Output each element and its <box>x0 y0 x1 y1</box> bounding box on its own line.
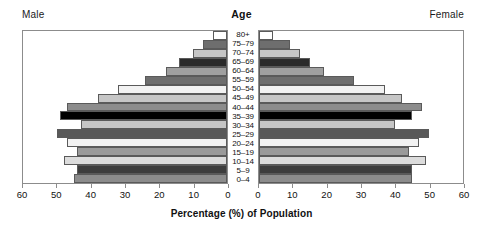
age-label: 35–39 <box>228 112 258 121</box>
male-plot-panel <box>22 30 228 184</box>
bar-left-1519 <box>77 147 227 156</box>
bar-row <box>23 103 227 112</box>
axis-tick <box>56 184 57 188</box>
axis-tick <box>159 184 160 188</box>
bar-left-5559 <box>145 76 227 85</box>
bar-row <box>23 40 227 49</box>
axis-tick-label: 20 <box>321 189 332 200</box>
bar-left-3034 <box>81 120 227 129</box>
axis-tick-label: 30 <box>356 189 367 200</box>
age-label: 70–74 <box>228 48 258 57</box>
age-label: 15–19 <box>228 148 258 157</box>
age-label: 60–64 <box>228 66 258 75</box>
bar-row <box>259 94 463 103</box>
bar-left-3539 <box>60 111 227 120</box>
bar-row <box>23 76 227 85</box>
bar-right-2529 <box>259 129 429 138</box>
bar-row <box>23 129 227 138</box>
female-x-axis: 0102030405060 <box>258 184 464 206</box>
bar-row <box>259 156 463 165</box>
population-pyramid-chart: Male Female Age 80+75–7970–7465–6960–645… <box>0 0 483 234</box>
axis-tick-label: 60 <box>459 189 470 200</box>
bar-row <box>259 49 463 58</box>
axis-tick-label: 0 <box>225 189 230 200</box>
bar-left-80+ <box>213 31 227 40</box>
bar-row <box>23 31 227 40</box>
bar-left-6569 <box>179 58 227 67</box>
axis-tick <box>292 184 293 188</box>
age-label: 20–24 <box>228 139 258 148</box>
age-label: 0–4 <box>228 175 258 184</box>
bar-right-1519 <box>259 147 409 156</box>
age-label: 65–69 <box>228 57 258 66</box>
male-x-axis: 0102030405060 <box>22 184 228 206</box>
axis-tick-label: 40 <box>390 189 401 200</box>
bar-row <box>23 85 227 94</box>
age-label: 80+ <box>228 30 258 39</box>
bar-right-4549 <box>259 94 402 103</box>
bar-row <box>23 67 227 76</box>
bar-right-04 <box>259 174 412 183</box>
axis-tick-label: 50 <box>51 189 62 200</box>
axis-tick-label: 50 <box>424 189 435 200</box>
age-label: 5–9 <box>228 166 258 175</box>
bar-row <box>23 58 227 67</box>
bar-left-5054 <box>118 85 227 94</box>
bar-row <box>259 40 463 49</box>
bar-right-3034 <box>259 120 395 129</box>
bar-row <box>23 138 227 147</box>
bar-row <box>23 49 227 58</box>
bar-row <box>23 111 227 120</box>
axis-tick-label: 10 <box>287 189 298 200</box>
bar-left-6064 <box>166 67 227 76</box>
bar-left-7074 <box>193 49 227 58</box>
axis-tick-label: 0 <box>255 189 260 200</box>
bar-left-4549 <box>98 94 227 103</box>
axis-tick <box>125 184 126 188</box>
bar-left-7579 <box>203 40 227 49</box>
bar-left-2529 <box>57 129 227 138</box>
axis-tick <box>228 184 229 188</box>
age-label: 55–59 <box>228 75 258 84</box>
bar-left-04 <box>74 174 227 183</box>
male-bar-rows <box>23 31 227 183</box>
female-bar-rows <box>259 31 463 183</box>
bar-row <box>259 138 463 147</box>
axis-tick <box>258 184 259 188</box>
bar-left-1014 <box>64 156 227 165</box>
axis-tick <box>327 184 328 188</box>
bar-left-2024 <box>67 138 227 147</box>
bar-right-6569 <box>259 58 310 67</box>
bar-left-4044 <box>67 103 227 112</box>
female-plot-panel <box>258 30 464 184</box>
age-label: 75–79 <box>228 39 258 48</box>
axis-tick <box>22 184 23 188</box>
bar-right-5559 <box>259 76 354 85</box>
bar-left-59 <box>77 165 227 174</box>
bar-right-7074 <box>259 49 300 58</box>
axis-tick <box>430 184 431 188</box>
bar-right-80+ <box>259 31 273 40</box>
bar-row <box>259 67 463 76</box>
bar-right-6064 <box>259 67 324 76</box>
bar-right-1014 <box>259 156 426 165</box>
x-axis-title: Percentage (%) of Population <box>0 208 483 219</box>
age-label: 50–54 <box>228 84 258 93</box>
bar-right-3539 <box>259 111 412 120</box>
age-group-labels: 80+75–7970–7465–6960–6455–5950–5445–4940… <box>228 30 258 184</box>
age-label: 10–14 <box>228 157 258 166</box>
axis-tick <box>194 184 195 188</box>
axis-tick-label: 60 <box>17 189 28 200</box>
bar-row <box>259 111 463 120</box>
axis-tick <box>464 184 465 188</box>
bar-row <box>259 129 463 138</box>
bar-row <box>259 103 463 112</box>
bar-row <box>23 94 227 103</box>
bar-row <box>23 156 227 165</box>
axis-tick <box>91 184 92 188</box>
bar-row <box>259 31 463 40</box>
axis-tick-label: 30 <box>120 189 131 200</box>
bar-row <box>23 120 227 129</box>
bar-row <box>259 147 463 156</box>
age-label: 30–34 <box>228 121 258 130</box>
